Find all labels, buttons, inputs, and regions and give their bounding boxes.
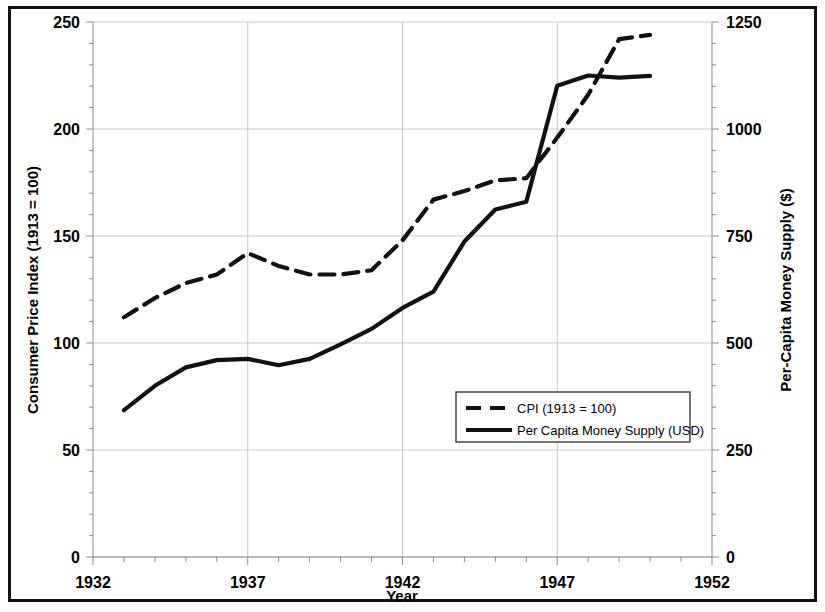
y-tick-label: 150 — [53, 228, 80, 245]
x-tick-label: 1947 — [539, 574, 575, 591]
y2-tick-label: 1000 — [726, 121, 762, 138]
y2-tick-label: 750 — [726, 228, 753, 245]
y-axis-ticks — [86, 22, 93, 557]
y-axis-title: Consumer Price Index (1913 = 100) — [24, 166, 41, 414]
y-tick-label: 200 — [53, 121, 80, 138]
x-tick-label: 1937 — [230, 574, 266, 591]
y-tick-label: 250 — [53, 14, 80, 31]
y-axis-tick-labels: 050100150200250 — [53, 14, 80, 566]
y2-axis-tick-labels: 025050075010001250 — [726, 14, 762, 566]
y2-axis-title: Per-Capita Money Supply ($) — [777, 188, 794, 391]
x-axis-ticks — [93, 557, 712, 565]
y2-tick-label: 1250 — [726, 14, 762, 31]
chart-figure: 050100150200250 025050075010001250 19321… — [0, 0, 825, 612]
chart-legend: CPI (1913 = 100)Per Capita Money Supply … — [456, 392, 704, 442]
y2-tick-label: 500 — [726, 335, 753, 352]
y2-tick-label: 0 — [726, 549, 735, 566]
legend-label: CPI (1913 = 100) — [517, 401, 616, 416]
legend-label: Per Capita Money Supply (USD) — [517, 423, 704, 438]
y-tick-label: 50 — [62, 442, 80, 459]
y2-axis-ticks — [712, 22, 719, 557]
y2-tick-label: 250 — [726, 442, 753, 459]
y-tick-label: 100 — [53, 335, 80, 352]
x-axis-title: Year — [386, 587, 418, 604]
x-tick-label: 1932 — [75, 574, 111, 591]
y-tick-label: 0 — [71, 549, 80, 566]
x-tick-label: 1952 — [694, 574, 730, 591]
line-chart: 050100150200250 025050075010001250 19321… — [0, 0, 825, 612]
